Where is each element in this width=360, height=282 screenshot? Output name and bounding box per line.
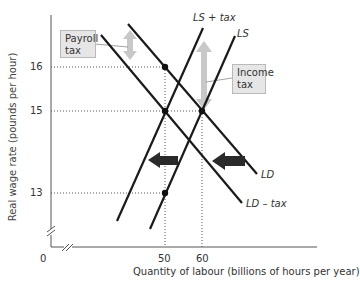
y-axis-label: Real wage rate (pounds per hour) [7,53,18,222]
income-pointer-line [206,78,232,82]
payroll-tax-line2: tax [65,45,91,57]
payroll-tax-box: Payroll tax [60,30,96,58]
x-tick-50: 50 [158,254,171,264]
payroll-tax-line1: Payroll [65,33,91,45]
y-tick-16: 16 [30,62,43,72]
income-tax-line2: tax [237,79,261,91]
ld-label: LD [261,170,274,180]
shift-arrow-left [148,152,178,168]
ls-plus-tax-label: LS + tax [193,13,236,23]
y-tick-15: 15 [30,106,43,116]
point-60-15 [199,108,205,114]
x-tick-60: 60 [196,254,209,264]
ls-label: LS [237,29,249,39]
payroll-tax-arrow [123,30,137,60]
income-tax-line1: Income [237,67,261,79]
x-tick-origin: 0 [40,254,46,264]
income-tax-arrow [196,41,212,110]
point-50-15 [162,108,168,114]
equilibrium-points [162,64,205,196]
ld-minus-tax-label: LD – tax [246,199,287,209]
point-50-13 [162,190,168,196]
x-axis-label: Quantity of labour (billions of hours pe… [133,267,360,277]
point-50-16 [162,64,168,70]
y-tick-13: 13 [30,188,43,198]
income-tax-box: Income tax [232,64,266,94]
guide-lines [51,67,202,247]
